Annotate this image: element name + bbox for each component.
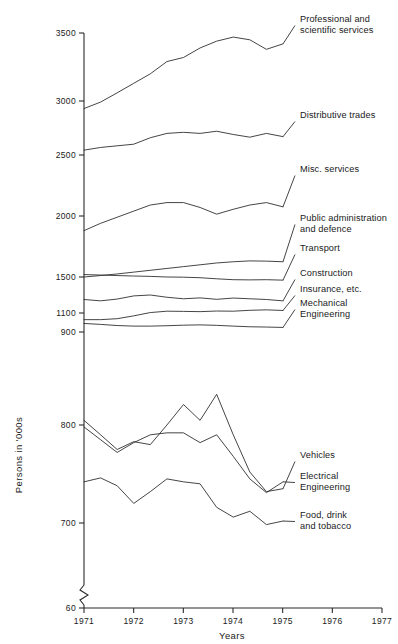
leader-line-group <box>283 26 295 522</box>
series-line <box>84 478 283 525</box>
label-leader-line <box>283 26 295 44</box>
y-tick-label: 2000 <box>56 211 76 221</box>
y-tick-label: 700 <box>61 518 76 528</box>
y-tick-label: 900 <box>61 327 76 337</box>
series-label: Vehicles <box>300 450 335 460</box>
series-label: Electrical <box>300 471 338 481</box>
series-label: Engineering <box>300 482 350 492</box>
series-label: and tobacco <box>300 521 351 531</box>
x-tick-label: 1975 <box>273 616 293 626</box>
series-label: Mechanical <box>300 298 347 308</box>
series-group <box>84 37 283 525</box>
y-tick-label: 800 <box>61 420 76 430</box>
series-label: Professional and <box>300 14 370 24</box>
series-line <box>84 275 283 281</box>
label-leader-line <box>283 482 295 483</box>
y-axis-break-zigzag <box>80 585 88 605</box>
series-line <box>84 295 283 301</box>
x-tick-label: 1976 <box>322 616 342 626</box>
series-label: Engineering <box>300 309 350 319</box>
series-label: Misc. services <box>300 164 359 174</box>
label-leader-line <box>283 122 295 137</box>
x-tick-label: 1972 <box>124 616 144 626</box>
series-label: and defence <box>300 224 352 234</box>
y-tick-label: 1100 <box>56 308 76 318</box>
series-line <box>84 37 283 108</box>
label-leader-line <box>283 255 295 281</box>
chart-container: 35003000250020001500110090080070060 1971… <box>0 0 398 644</box>
y-tick-group: 35003000250020001500110090080070060 <box>56 28 84 613</box>
label-leader-line <box>283 310 295 328</box>
series-label: Insurance, etc. <box>300 284 362 294</box>
label-leader-line <box>283 462 295 489</box>
series-label: Transport <box>300 243 340 253</box>
series-label: Distributive trades <box>300 110 376 120</box>
y-axis: 35003000250020001500110090080070060 <box>56 28 88 613</box>
x-tick-group: 1971197219731974197519761977 <box>74 608 392 626</box>
series-label: scientific services <box>300 25 374 35</box>
x-axis: 1971197219731974197519761977 <box>74 608 392 626</box>
series-line <box>84 131 283 150</box>
y-tick-label: 60 <box>66 603 76 613</box>
series-label: Public administration <box>300 213 387 223</box>
label-leader-line <box>283 176 295 207</box>
x-tick-label: 1974 <box>223 616 243 626</box>
series-line <box>84 323 283 327</box>
y-axis-title: Persons in '000s <box>13 417 24 493</box>
series-line <box>84 203 283 231</box>
x-tick-label: 1973 <box>173 616 193 626</box>
y-tick-label: 2500 <box>56 150 76 160</box>
series-line <box>84 394 283 491</box>
series-label: Food, drink <box>300 510 347 520</box>
line-chart: 35003000250020001500110090080070060 1971… <box>0 0 398 644</box>
x-tick-label: 1971 <box>74 616 94 626</box>
series-label-group: Professional andscientific servicesDistr… <box>300 14 387 531</box>
series-label: Construction <box>300 268 353 278</box>
x-axis-title: Years <box>219 630 245 641</box>
y-tick-label: 1500 <box>56 272 76 282</box>
y-tick-label: 3000 <box>56 96 76 106</box>
label-leader-line <box>283 225 295 262</box>
y-tick-label: 3500 <box>56 28 76 38</box>
series-line <box>84 261 283 277</box>
series-line <box>84 427 283 493</box>
series-line <box>84 310 283 320</box>
x-tick-label: 1977 <box>372 616 392 626</box>
